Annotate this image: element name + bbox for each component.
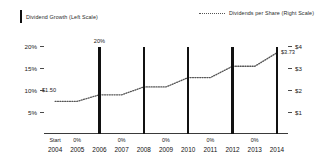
left-axis-tick-label: 20% (25, 43, 37, 50)
category-year-label: 2014 (265, 145, 289, 155)
bar (231, 47, 233, 134)
right-axis-tick-mark (288, 68, 292, 69)
bar (98, 47, 100, 134)
category-year-label: 2004 (43, 145, 67, 155)
category-axis-column: 2010 (176, 136, 200, 155)
category-axis-column: 0%2009 (154, 136, 178, 155)
category-year-label: 2010 (176, 145, 200, 155)
category-sublabel: Start (43, 136, 67, 145)
category-axis-column: 2006 (87, 136, 111, 155)
category-year-label: 2006 (87, 145, 111, 155)
category-axis-column: 2014 (265, 136, 289, 155)
category-sublabel: 0% (65, 136, 89, 145)
category-year-label: 2009 (154, 145, 178, 155)
category-axis-column: 2008 (132, 136, 156, 155)
dividends-per-share-line (44, 36, 288, 134)
bar (187, 47, 189, 134)
category-sublabel (87, 136, 111, 145)
category-axis-column: 0%2005 (65, 136, 89, 155)
right-axis-tick: $1 (288, 108, 302, 116)
category-axis-column: 0%2013 (243, 136, 267, 155)
left-axis-tick: 15% (25, 65, 44, 73)
left-axis-tick: 20% (25, 43, 44, 51)
bar (143, 47, 145, 134)
left-axis-tick-label: 5% (28, 109, 37, 116)
left-axis-tick-label: 15% (25, 65, 37, 72)
bar (276, 47, 278, 134)
legend-item-dividend-growth: Dividend Growth (Left Scale) (20, 10, 98, 23)
right-axis-tick-label: $4 (295, 43, 302, 50)
category-sublabel (265, 136, 289, 145)
legend-label-dividends-per-share: Dividends per Share (Right Scale) (229, 10, 314, 16)
dividend-growth-chart: Dividend Growth (Left Scale) Dividends p… (0, 0, 334, 168)
legend-item-dividends-per-share: Dividends per Share (Right Scale) (199, 10, 314, 16)
left-axis-tick-label: 10% (25, 87, 37, 94)
bar-value-label: 20% (94, 38, 105, 44)
category-year-label: 2012 (221, 145, 245, 155)
category-axis: Start20040%200520060%200720080%200920100… (44, 136, 288, 166)
right-axis-tick: $3 (288, 65, 302, 73)
left-axis-tick: 5% (28, 108, 44, 116)
dividends-line-path (55, 53, 277, 102)
legend-label-dividend-growth: Dividend Growth (Left Scale) (26, 14, 98, 20)
category-sublabel (221, 136, 245, 145)
category-axis-column: 0%2011 (198, 136, 222, 155)
category-axis-column: 2012 (221, 136, 245, 155)
chart-legend: Dividend Growth (Left Scale) Dividends p… (0, 0, 334, 30)
plot-area: 20%$1.50$3.73 (44, 36, 288, 134)
category-sublabel: 0% (154, 136, 178, 145)
category-year-label: 2008 (132, 145, 156, 155)
category-year-label: 2011 (198, 145, 222, 155)
right-axis-tick-mark (288, 90, 292, 91)
category-sublabel (176, 136, 200, 145)
category-sublabel: 0% (110, 136, 134, 145)
category-year-label: 2005 (65, 145, 89, 155)
category-sublabel: 0% (198, 136, 222, 145)
right-axis-tick-label: $3 (295, 65, 302, 72)
category-axis-column: 0%2007 (110, 136, 134, 155)
bar-swatch-icon (20, 10, 22, 23)
right-axis-tick-mark (288, 46, 292, 47)
category-year-label: 2007 (110, 145, 134, 155)
right-axis-tick-label: $2 (295, 87, 302, 94)
line-end-value-label: $3.73 (281, 49, 295, 55)
category-axis-column: Start2004 (43, 136, 67, 155)
category-sublabel: 0% (243, 136, 267, 145)
category-sublabel (132, 136, 156, 145)
right-axis-tick: $2 (288, 86, 302, 94)
line-start-value-label: $1.50 (42, 87, 56, 93)
right-axis-tick-label: $1 (295, 109, 302, 116)
category-year-label: 2013 (243, 145, 267, 155)
right-axis-tick-mark (288, 112, 292, 113)
dotted-line-swatch-icon (199, 13, 225, 14)
